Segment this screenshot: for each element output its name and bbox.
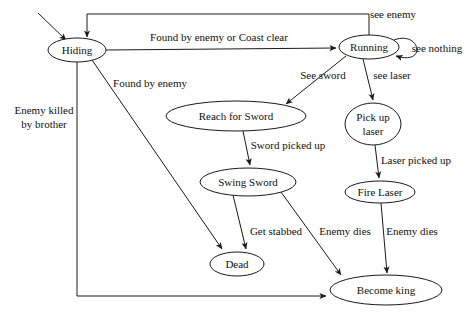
state-label-pick-up-laser-line2: laser — [363, 125, 384, 137]
edge-label-laser-picked-up: Laser picked up — [381, 154, 452, 166]
edge-label-enemy-dies-sword: Enemy dies — [319, 225, 371, 237]
state-label-become-king: Become king — [357, 284, 416, 296]
edge-label-sword-picked-up: Sword picked up — [251, 139, 326, 151]
state-node-swing-sword[interactable]: Swing Sword — [200, 168, 296, 196]
state-node-dead[interactable]: Dead — [210, 252, 264, 276]
edge-label-see-enemy: see enemy — [370, 8, 417, 20]
edge-start-arrow — [38, 13, 66, 40]
edge-reach-to-swing-sword: Sword picked up — [243, 131, 326, 165]
edge-label-see-nothing: see nothing — [412, 42, 463, 54]
edge-label-found-by-enemy: Found by enemy — [113, 77, 187, 89]
edge-running-to-reach-for-sword: See sword — [286, 56, 346, 104]
edge-label-see-laser: see laser — [373, 69, 411, 81]
state-node-become-king[interactable]: Become king — [330, 275, 442, 305]
state-label-swing-sword: Swing Sword — [218, 176, 278, 188]
state-label-running: Running — [350, 41, 388, 53]
state-node-hiding[interactable]: Hiding — [48, 38, 106, 62]
state-diagram-canvas: see enemy Found by enemy or Coast clear … — [0, 0, 474, 318]
edge-label-enemy-killed-line1: Enemy killed — [15, 104, 74, 116]
edge-hiding-to-running: Found by enemy or Coast clear — [106, 31, 336, 50]
edge-swing-to-dead: Get stabbed — [233, 195, 303, 249]
edge-fire-laser-to-become-king: Enemy dies — [381, 203, 438, 273]
state-label-reach-for-sword: Reach for Sword — [199, 110, 274, 122]
edge-pickup-to-fire-laser: Laser picked up — [375, 145, 452, 178]
edge-label-get-stabbed: Get stabbed — [250, 225, 303, 237]
state-node-pick-up-laser[interactable]: Pick up laser — [345, 103, 401, 145]
edge-label-enemy-killed-line2: by brother — [21, 118, 67, 130]
state-node-running[interactable]: Running — [339, 35, 399, 59]
state-label-dead: Dead — [225, 258, 249, 270]
edge-label-see-sword: See sword — [300, 69, 346, 81]
state-label-fire-laser: Fire Laser — [358, 186, 403, 198]
edge-label-found-by-enemy-or-coast-clear: Found by enemy or Coast clear — [150, 31, 288, 43]
state-label-pick-up-laser-line1: Pick up — [356, 111, 390, 123]
edge-hiding-to-dead: Found by enemy — [92, 60, 222, 249]
state-node-reach-for-sword[interactable]: Reach for Sword — [166, 101, 306, 131]
edge-label-enemy-dies-laser: Enemy dies — [386, 225, 438, 237]
state-diagram: see enemy Found by enemy or Coast clear … — [0, 0, 474, 318]
state-node-fire-laser[interactable]: Fire Laser — [345, 181, 415, 203]
edge-running-self-loop: see nothing — [394, 38, 463, 58]
edge-running-to-pickup-laser: see laser — [363, 59, 411, 100]
state-label-hiding: Hiding — [62, 44, 93, 56]
